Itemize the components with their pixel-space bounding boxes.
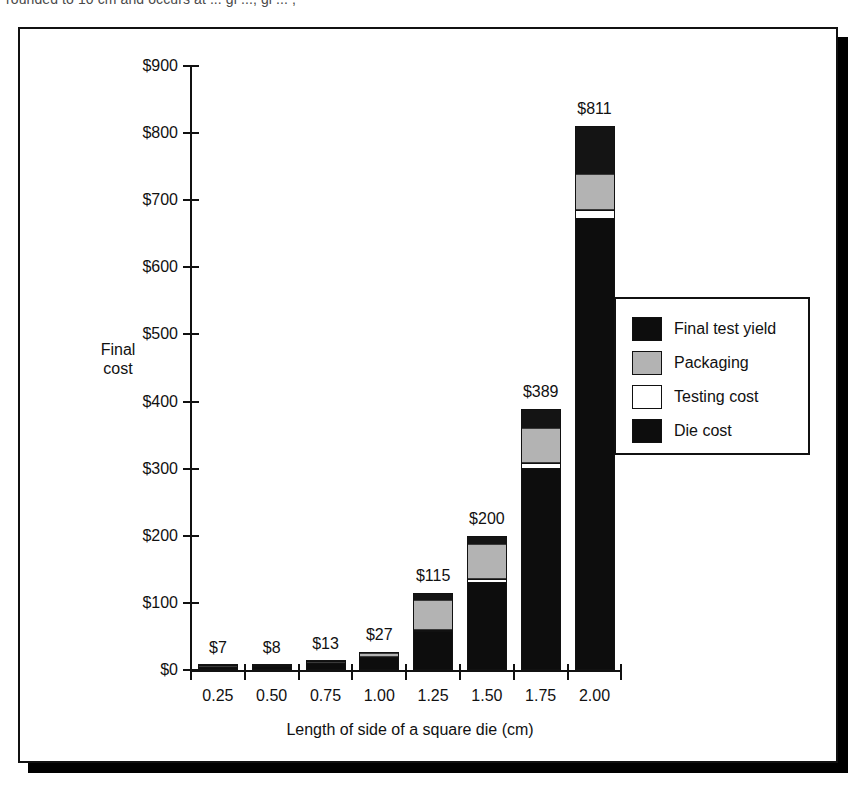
- x-axis-tick-label: 2.00: [565, 687, 625, 705]
- legend-label: Die cost: [674, 422, 732, 440]
- x-axis-tick-label: 0.75: [296, 687, 356, 705]
- legend-swatch-packaging: [632, 351, 662, 375]
- x-axis-tick: [190, 664, 192, 680]
- x-axis-tick: [459, 664, 461, 680]
- bar-outline: [198, 665, 238, 670]
- y-axis-tick: [183, 266, 199, 268]
- x-axis-tick: [405, 664, 407, 680]
- y-axis-tick-label: $600: [106, 258, 178, 276]
- y-axis-tick-label: $800: [106, 124, 178, 142]
- bar-value-label: $200: [447, 510, 527, 528]
- bar-outline: [521, 409, 561, 670]
- x-axis-tick: [298, 664, 300, 680]
- y-axis-tick: [183, 199, 199, 201]
- figure-screenshot: rounded to 10 cm and occurs at ... gi ..…: [0, 0, 864, 788]
- bar-value-label: $811: [555, 100, 635, 118]
- y-axis-tick: [183, 132, 199, 134]
- legend-swatch-die-cost: [632, 419, 662, 443]
- x-axis-tick-label: 1.00: [349, 687, 409, 705]
- legend-item: Packaging: [632, 351, 749, 375]
- legend-label: Final test yield: [674, 320, 776, 338]
- y-axis-tick: [183, 602, 199, 604]
- bar-column: [306, 661, 346, 670]
- y-axis-tick-label: $200: [106, 527, 178, 545]
- y-axis-tick: [183, 333, 199, 335]
- chart-legend: Final test yieldPackagingTesting costDie…: [614, 297, 810, 455]
- bar-column: [467, 536, 507, 670]
- legend-item: Final test yield: [632, 317, 776, 341]
- bar-value-label: $389: [501, 383, 581, 401]
- x-axis-tick: [244, 664, 246, 680]
- y-axis-title-line2: cost: [68, 359, 168, 378]
- y-axis-tick: [183, 65, 199, 67]
- legend-label: Packaging: [674, 354, 749, 372]
- y-axis-tick: [183, 401, 199, 403]
- bar-outline: [359, 652, 399, 670]
- y-axis-tick-label: $300: [106, 460, 178, 478]
- legend-label: Testing cost: [674, 388, 758, 406]
- x-axis-tick: [620, 664, 622, 680]
- y-axis-tick-label: $700: [106, 191, 178, 209]
- y-axis-tick: [183, 535, 199, 537]
- x-axis-tick: [351, 664, 353, 680]
- bar-outline: [467, 536, 507, 670]
- bar-column: [252, 665, 292, 670]
- bar-column: [521, 409, 561, 670]
- y-axis-title: Final cost: [68, 340, 168, 378]
- legend-item: Die cost: [632, 419, 732, 443]
- y-axis-tick-labels: $0$100$200$300$400$500$600$700$800$900: [96, 29, 178, 765]
- bar-value-label: $27: [339, 626, 419, 644]
- chart-plot-area: $0$100$200$300$400$500$600$700$800$900 0…: [20, 29, 840, 765]
- x-axis-tick: [567, 664, 569, 680]
- bar-outline: [252, 665, 292, 670]
- x-axis-tick-label: 1.25: [403, 687, 463, 705]
- bar-column: [198, 665, 238, 670]
- x-axis-tick-label: 1.75: [511, 687, 571, 705]
- caption-text: rounded to 10 cm and occurs at ... gi ..…: [6, 0, 296, 7]
- x-axis-tick-label: 1.50: [457, 687, 517, 705]
- legend-swatch-final-test-yield: [632, 317, 662, 341]
- x-axis-tick-label: 0.50: [242, 687, 302, 705]
- y-axis-tick-label: $0: [106, 661, 178, 679]
- y-axis-title-line1: Final: [101, 341, 136, 358]
- legend-item: Testing cost: [632, 385, 758, 409]
- y-axis-tick-label: $100: [106, 594, 178, 612]
- page-caption-cropped: rounded to 10 cm and occurs at ... gi ..…: [0, 0, 864, 14]
- x-axis-tick-label: 0.25: [188, 687, 248, 705]
- y-axis-tick-label: $400: [106, 393, 178, 411]
- x-axis-title: Length of side of a square die (cm): [180, 721, 640, 739]
- y-axis-tick: [183, 468, 199, 470]
- y-axis-line: [190, 66, 192, 671]
- bar-outline: [306, 661, 346, 670]
- y-axis-tick-label: $900: [106, 57, 178, 75]
- bar-value-label: $115: [393, 567, 473, 585]
- bar-column: [359, 652, 399, 670]
- legend-swatch-testing-cost: [632, 385, 662, 409]
- figure-frame: $0$100$200$300$400$500$600$700$800$900 0…: [18, 27, 838, 763]
- x-axis-tick: [513, 664, 515, 680]
